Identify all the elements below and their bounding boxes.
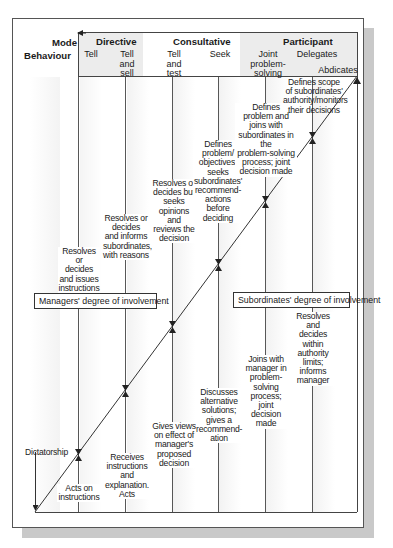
manager-action-tell-and-test: Resolves ordecides butseeksopinions andr… (152, 179, 196, 243)
subordinate-action-tell-and-test: Gives viewson effect ofmanager'sproposed… (152, 422, 196, 468)
behaviour-abdicates: Abdicates (316, 66, 360, 76)
behaviour-delegates: Delegates (294, 50, 340, 60)
subordinates-involvement-box: Subordinates' degree of involvement (233, 292, 350, 308)
row-label-behaviour: Behaviour (24, 50, 71, 61)
row-label-mode: Mode (52, 37, 77, 48)
behaviour-seek: Seek (205, 50, 235, 60)
behaviour-tell: Tell (80, 50, 102, 60)
mode-participant: Participant (283, 36, 333, 47)
mode-consultative: Consultative (173, 36, 231, 47)
subordinate-action-tell-and-sell: Receivesinstructionsandexplanation.Acts (104, 453, 150, 499)
manager-action-delegates: Defines scopeof subordinates'authority/m… (283, 78, 345, 115)
subordinate-action-delegates: Resolvesanddecideswithinauthoritylimits;… (291, 312, 335, 386)
behaviour-tell-and-sell: Tellandsell (112, 50, 142, 79)
manager-action-tell-and-sell: Resolves ordecidesand informssubordinate… (103, 214, 149, 260)
subordinate-action-seek: Discussesalternativesolutions;gives arec… (196, 388, 242, 443)
subordinate-action-joint: Joins withmanager inproblem-solvingproce… (243, 355, 289, 429)
managers-involvement-box: Managers' degree of involvement (34, 293, 157, 309)
behaviour-joint-problem-solving: Jointproblem-solving (248, 50, 288, 79)
dictatorship-label: Dictatorship (25, 448, 75, 457)
mode-directive: Directive (96, 36, 137, 47)
behaviour-tell-and-test: Tellandtest (159, 50, 189, 79)
subordinate-action-tell: Acts oninstructions (57, 484, 101, 502)
